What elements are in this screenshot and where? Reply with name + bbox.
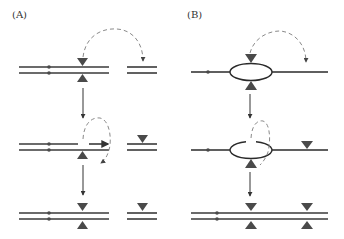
panel-a-stage-1: [19, 29, 157, 82]
marker-dot: [206, 148, 210, 152]
triangle-down-icon: [301, 141, 313, 149]
marker-dot: [47, 211, 51, 215]
dashed-transfer-arrow: [250, 31, 306, 62]
marker-dot: [47, 148, 51, 152]
triangle-up-icon: [245, 221, 257, 229]
marker-dot: [47, 142, 51, 146]
marker-dot: [47, 71, 51, 75]
marker-dot: [206, 70, 210, 74]
dashed-transfer-arrow: [83, 29, 143, 61]
diagram-canvas: (A) (B): [0, 0, 344, 239]
panel-label-b: (B): [187, 9, 202, 20]
triangle-down-icon: [245, 54, 257, 63]
triangle-up-icon: [77, 221, 88, 229]
triangle-up-icon: [301, 221, 313, 229]
triangle-down-icon: [301, 203, 313, 211]
triangle-up-icon: [77, 74, 88, 82]
panel-b: [191, 31, 328, 229]
panel-b-stage-2: [191, 121, 328, 168]
replication-bubble: [230, 64, 272, 81]
marker-dot: [215, 211, 219, 215]
panel-label-a: (A): [12, 9, 27, 20]
triangle-down-icon: [77, 58, 88, 66]
triangle-up-icon: [245, 159, 257, 168]
panel-b-stage-3: [191, 203, 328, 229]
triangle-down-icon: [137, 203, 148, 211]
marker-dot: [215, 217, 219, 221]
replication-bubble-open: [230, 142, 272, 159]
triangle-up-icon: [77, 151, 88, 159]
dashed-loop-arrow: [83, 118, 110, 163]
triangle-up-icon: [245, 81, 257, 90]
triangle-down-icon: [77, 203, 88, 211]
panel-a-stage-3: [19, 203, 157, 229]
panel-a-stage-2: [19, 118, 157, 163]
marker-dot: [47, 217, 51, 221]
panel-a: [19, 29, 157, 229]
marker-dot: [47, 65, 51, 69]
triangle-down-icon: [137, 135, 148, 143]
triangle-down-icon: [245, 203, 257, 211]
panel-b-stage-1: [191, 31, 328, 90]
